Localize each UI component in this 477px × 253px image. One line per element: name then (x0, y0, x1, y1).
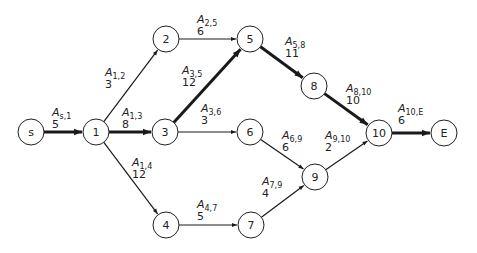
activity-duration: 8 (122, 118, 129, 131)
node-8: 8 (301, 73, 327, 99)
node-label: s (28, 126, 34, 139)
node-7: 7 (238, 212, 264, 238)
node-label: 2 (163, 33, 170, 46)
nodes-layer: s12345678910E (18, 26, 457, 238)
activity-duration: 2 (325, 141, 332, 154)
node-1: 1 (83, 119, 109, 145)
node-label: 4 (163, 219, 170, 232)
activity-subscript: s,1 (60, 112, 72, 121)
activity-duration: 5 (197, 210, 204, 223)
activity-duration: 5 (52, 118, 59, 131)
node-3: 3 (152, 119, 178, 145)
node-label: E (441, 127, 448, 140)
node-label: 6 (247, 126, 254, 139)
node-10: 10 (366, 120, 392, 146)
activity-duration: 6 (398, 114, 405, 127)
edge-1-4 (104, 142, 158, 213)
activity-duration: 3 (201, 114, 208, 127)
node-5: 5 (237, 26, 263, 52)
activity-duration: 10 (346, 94, 360, 107)
activity-subscript: 4,7 (205, 204, 218, 213)
node-9: 9 (302, 164, 328, 190)
activity-duration: 12 (132, 168, 146, 181)
node-label: 7 (248, 219, 255, 232)
node-E: E (431, 120, 457, 146)
node-2: 2 (153, 26, 179, 52)
activity-duration: 6 (197, 25, 204, 38)
node-4: 4 (153, 212, 179, 238)
activity-subscript: 6,9 (290, 135, 303, 144)
activity-duration: 11 (285, 47, 299, 60)
node-label: 3 (162, 126, 169, 139)
activity-duration: 4 (262, 187, 269, 200)
activity-subscript: 9,10 (333, 135, 351, 144)
activity-subscript: 1,2 (113, 72, 126, 81)
node-6: 6 (237, 119, 263, 145)
network-diagram: As,15A1,23A1,38A1,412A2,56A3,512A3,63A4,… (0, 0, 477, 253)
node-s: s (18, 119, 44, 145)
node-label: 10 (372, 127, 386, 140)
node-label: 9 (312, 171, 319, 184)
activity-subscript: 1,3 (130, 112, 143, 121)
activity-duration: 3 (105, 78, 112, 91)
node-label: 5 (247, 33, 254, 46)
activity-duration: 6 (282, 141, 289, 154)
activity-subscript: 3,6 (209, 108, 222, 117)
node-label: 8 (311, 80, 318, 93)
node-label: 1 (93, 126, 100, 139)
activity-duration: 12 (182, 76, 196, 89)
arrow (104, 142, 158, 213)
activity-subscript: 2,5 (205, 19, 218, 28)
activity-subscript: 10,E (406, 108, 424, 117)
activity-subscript: 7,9 (270, 181, 283, 190)
